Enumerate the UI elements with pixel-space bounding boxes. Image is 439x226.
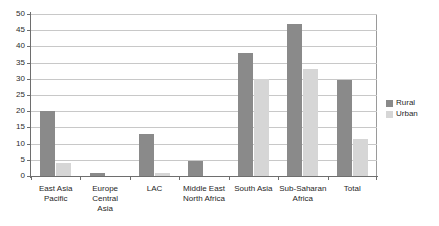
y-axis-tick-label: 25	[3, 91, 25, 99]
y-axis-tick-label: 45	[3, 26, 25, 34]
y-axis-tick-label: 40	[3, 42, 25, 50]
chart-legend: RuralUrban	[386, 99, 438, 121]
x-axis-tick-mark	[31, 176, 32, 180]
x-axis-label-line: Europe Central	[81, 184, 128, 204]
y-axis-tick-mark	[27, 30, 30, 31]
y-axis-tick-mark	[27, 63, 30, 64]
x-axis-tick-cell	[179, 176, 228, 180]
x-axis-label: Total	[328, 184, 377, 214]
y-axis-tick-label: 35	[3, 59, 25, 67]
x-axis-label-line: Middle East	[180, 184, 227, 194]
y-axis-tick-label: 15	[3, 123, 25, 131]
x-axis-label-line: Pacific	[32, 194, 79, 204]
bar-group	[229, 14, 278, 176]
y-axis-tick-mark	[27, 144, 30, 145]
y-axis-tick-label: 50	[3, 10, 25, 18]
bar-urban	[303, 69, 318, 176]
x-axis-tick-cell	[80, 176, 129, 180]
x-axis-label: Sub-SaharanAfrica	[278, 184, 327, 214]
x-axis-tick-cell	[31, 176, 80, 180]
bar-rural	[188, 161, 203, 176]
x-axis-tick-mark	[179, 176, 180, 180]
x-axis-label: Europe CentralAsia	[80, 184, 129, 214]
x-axis-tick-cell	[229, 176, 278, 180]
y-axis-tick-label: 30	[3, 75, 25, 83]
x-axis-labels: East AsiaPacificEurope CentralAsiaLACMid…	[31, 184, 377, 214]
bar-rural	[287, 24, 302, 176]
x-axis-tick-mark	[376, 176, 377, 180]
y-axis-tick-label: 10	[3, 140, 25, 148]
x-axis-tick-mark	[328, 176, 329, 180]
x-axis-label-line: LAC	[131, 184, 178, 194]
bar-group	[278, 14, 327, 176]
x-axis-label: South Asia	[229, 184, 278, 214]
legend-label: Rural	[396, 99, 415, 107]
legend-swatch-icon	[386, 111, 393, 118]
bar-group	[179, 14, 228, 176]
x-axis-label: East AsiaPacific	[31, 184, 80, 214]
bar-group	[31, 14, 80, 176]
y-axis-tick-label: 20	[3, 107, 25, 115]
y-axis-tick-mark	[27, 160, 30, 161]
x-axis-tick-mark	[229, 176, 230, 180]
x-axis-tick-cell	[328, 176, 377, 180]
x-axis-label-line: Total	[329, 184, 376, 194]
y-axis-tick-mark	[27, 79, 30, 80]
x-axis-label-line: Asia	[81, 204, 128, 214]
bar-rural	[238, 53, 253, 176]
x-axis-tick-mark	[278, 176, 279, 180]
bar-rural	[40, 111, 55, 176]
bar-rural	[337, 80, 352, 176]
legend-item[interactable]: Urban	[386, 110, 438, 118]
bar-group	[80, 14, 129, 176]
y-axis-tick-label: 5	[3, 156, 25, 164]
bar-groups	[31, 14, 377, 176]
legend-label: Urban	[396, 110, 418, 118]
x-axis-label-line: Africa	[279, 194, 326, 204]
bar-chart: 05101520253035404550 East AsiaPacificEur…	[0, 0, 439, 226]
x-axis-label: Middle EastNorth Africa	[179, 184, 228, 214]
bar-group	[328, 14, 377, 176]
legend-item[interactable]: Rural	[386, 99, 438, 107]
x-axis-tick-mark	[80, 176, 81, 180]
x-axis-tick-cell	[130, 176, 179, 180]
bar-urban	[56, 163, 71, 176]
y-axis-tick-mark	[27, 111, 30, 112]
x-axis-ticks	[31, 176, 377, 180]
x-axis-label-line: East Asia	[32, 184, 79, 194]
bar-rural	[139, 134, 154, 176]
x-axis-tick-mark	[130, 176, 131, 180]
y-axis-tick-label: 0	[3, 172, 25, 180]
y-axis-tick-mark	[27, 46, 30, 47]
x-axis-label-line: Sub-Saharan	[279, 184, 326, 194]
x-axis-label-line: South Asia	[230, 184, 277, 194]
x-axis-tick-cell	[278, 176, 327, 180]
legend-swatch-icon	[386, 100, 393, 107]
y-axis-tick-mark	[27, 127, 30, 128]
bar-group	[130, 14, 179, 176]
y-axis-tick-mark	[27, 14, 30, 15]
x-axis-label-line: North Africa	[180, 194, 227, 204]
bar-urban	[353, 139, 368, 176]
bar-urban	[254, 79, 269, 176]
x-axis-label: LAC	[130, 184, 179, 214]
y-axis-tick-mark	[27, 95, 30, 96]
